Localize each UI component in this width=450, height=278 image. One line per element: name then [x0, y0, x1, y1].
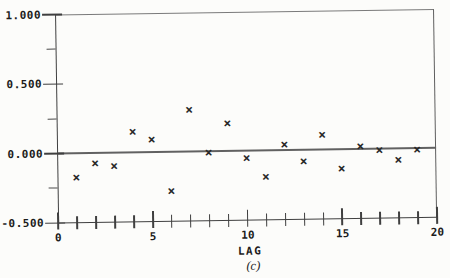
data-point: ×: [72, 170, 80, 183]
y-axis-major-tick: [42, 14, 62, 16]
x-axis-minor-tick: [76, 216, 78, 229]
x-axis-title: LAG: [238, 244, 263, 257]
x-axis-minor-tick: [95, 215, 97, 228]
data-point: ×: [394, 153, 402, 166]
x-axis-tick-label: 15: [336, 228, 349, 239]
y-axis-major-tick: [45, 222, 65, 224]
x-axis-minor-tick: [266, 213, 268, 226]
data-points-layer: ×××××××××××××××××××: [0, 0, 448, 3]
y-axis-major-tick: [43, 83, 63, 85]
x-axis-major-tick: [57, 212, 59, 230]
scan-tilt-layer: 1.0000.5000.000-0.50005101520 ××××××××××…: [0, 0, 450, 278]
data-point: ×: [262, 170, 270, 183]
data-point: ×: [356, 140, 364, 153]
data-point: ×: [205, 146, 213, 159]
x-axis-major-tick: [436, 206, 438, 224]
data-point: ×: [185, 103, 193, 116]
data-point: ×: [318, 128, 326, 141]
data-point: ×: [110, 159, 118, 172]
x-axis-major-tick: [247, 209, 249, 227]
x-axis-minor-tick: [114, 215, 116, 228]
x-axis-minor-tick: [398, 211, 400, 224]
axis-labels-layer: 1.0000.5000.000-0.50005101520: [0, 0, 448, 3]
y-axis-minor-tick: [47, 49, 56, 51]
data-point: ×: [338, 162, 346, 175]
y-axis-minor-tick: [48, 118, 57, 120]
x-axis-minor-tick: [209, 214, 211, 227]
x-axis-minor-tick: [417, 211, 419, 224]
data-point: ×: [223, 117, 231, 130]
data-point: ×: [148, 133, 156, 146]
data-point: ×: [280, 138, 288, 151]
y-axis-tick-label: 1.000: [0, 9, 41, 21]
x-axis-major-tick: [152, 211, 154, 229]
data-point: ×: [413, 143, 421, 156]
axis-ticks-layer: [0, 0, 448, 3]
x-axis-major-tick: [341, 208, 343, 226]
x-axis-minor-tick: [228, 213, 230, 226]
y-axis-tick-label: 0.000: [0, 148, 43, 160]
x-axis-minor-tick: [285, 213, 287, 226]
data-point: ×: [300, 154, 308, 167]
y-axis-major-tick: [44, 153, 64, 155]
x-axis-tick-label: 0: [55, 232, 62, 243]
y-axis-tick-label: -0.500: [0, 218, 44, 230]
y-axis-minor-tick: [49, 188, 58, 190]
x-axis-minor-tick: [133, 215, 135, 228]
x-axis-tick-label: 10: [241, 229, 254, 240]
x-axis-minor-tick: [304, 212, 306, 225]
data-point: ×: [375, 144, 383, 157]
data-point: ×: [167, 184, 175, 197]
x-axis-minor-tick: [171, 214, 173, 227]
x-axis-minor-tick: [323, 212, 325, 225]
x-axis-minor-tick: [190, 214, 192, 227]
y-axis-tick-label: 0.500: [0, 79, 42, 91]
x-axis-minor-tick: [379, 211, 381, 224]
data-point: ×: [91, 156, 99, 169]
x-axis-minor-tick: [360, 211, 362, 224]
x-axis-tick-label: 20: [431, 226, 444, 237]
figure-caption: (c): [246, 258, 260, 273]
scanned-chart-figure: 1.0000.5000.000-0.50005101520 ××××××××××…: [0, 0, 450, 278]
x-axis-tick-label: 5: [150, 231, 157, 242]
data-point: ×: [129, 125, 137, 138]
plot-area: [55, 9, 437, 223]
data-point: ×: [243, 151, 251, 164]
